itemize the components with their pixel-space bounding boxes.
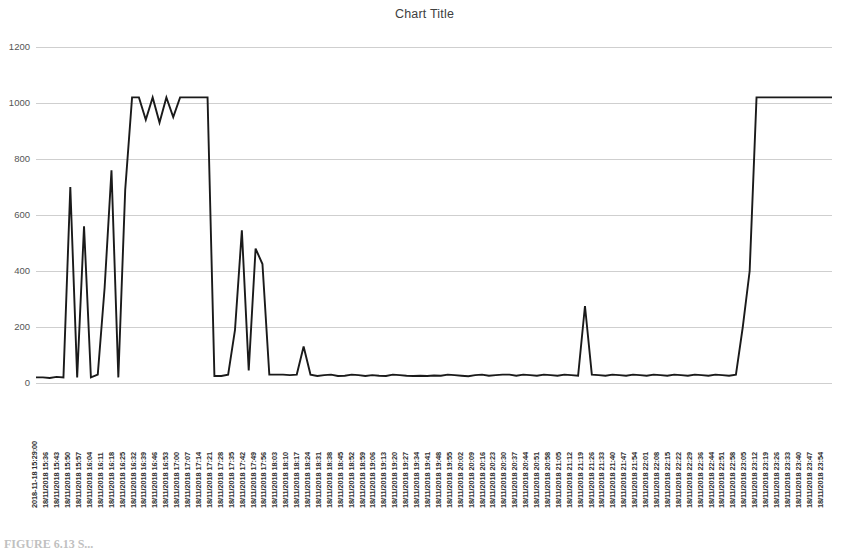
- x-tick-label: 18/11/2018 15:43: [52, 452, 61, 508]
- x-tick-label: 18/11/2018 20:44: [521, 452, 530, 508]
- gridline-0: [36, 383, 832, 384]
- y-tick-label: 1000: [9, 98, 30, 108]
- x-tick-label: 18/11/2018 20:09: [467, 452, 476, 508]
- x-tick-label: 18/11/2018 17:28: [216, 452, 225, 508]
- x-tick-label: 18/11/2018 18:17: [292, 452, 301, 508]
- x-tick-label: 18/11/2018 22:36: [696, 452, 705, 508]
- x-tick-label: 18/11/2018 22:15: [663, 452, 672, 508]
- x-tick-label: 18/11/2018 16:11: [96, 452, 105, 508]
- x-tick-label: 18/11/2018 16:32: [129, 452, 138, 508]
- x-tick-label: 18/11/2018 21:47: [619, 452, 628, 508]
- x-tick-label: 18/11/2018 18:24: [303, 452, 312, 508]
- data-series-line: [36, 47, 832, 383]
- x-tick-label: 18/11/2018 18:03: [270, 452, 279, 508]
- x-tick-label: 18/11/2018 23:12: [750, 452, 759, 508]
- caption-text: FIGURE 6.13 S...: [4, 540, 93, 552]
- x-tick-label: 18/11/2018 23:19: [761, 452, 770, 508]
- x-tick-label: 18/11/2018 17:49: [249, 452, 258, 508]
- x-tick-label: 18/11/2018 19:55: [445, 452, 454, 508]
- x-tick-label: 18/11/2018 17:14: [194, 452, 203, 508]
- x-tick-label: 18/11/2018 23:47: [805, 452, 814, 508]
- x-tick-label: 18/11/2018 21:54: [630, 452, 639, 508]
- x-tick-label: 18/11/2018 16:04: [85, 452, 94, 508]
- y-tick-label: 600: [14, 210, 30, 220]
- x-tick-label: 18/11/2018 18:38: [325, 452, 334, 508]
- x-tick-label: 18/11/2018 17:00: [172, 452, 181, 508]
- x-tick-label: 18/11/2018 20:16: [478, 452, 487, 508]
- x-tick-label: 18/11/2018 19:13: [379, 452, 388, 508]
- x-tick-label: 18/11/2018 22:22: [674, 452, 683, 508]
- x-tick-label: 18/11/2018 20:58: [543, 452, 552, 508]
- x-tick-label: 18/11/2018 17:42: [238, 452, 247, 508]
- x-tick-label: 2018-11-18 15:29:00: [30, 441, 39, 508]
- x-tick-label: 18/11/2018 19:20: [390, 452, 399, 508]
- x-tick-label: 18/11/2018 22:58: [728, 452, 737, 508]
- x-tick-label: 18/11/2018 19:06: [368, 452, 377, 508]
- x-tick-label: 18/11/2018 20:02: [456, 452, 465, 508]
- x-tick-label: 18/11/2018 21:19: [576, 452, 585, 508]
- x-tick-label: 18/11/2018 18:59: [358, 452, 367, 508]
- x-tick-label: 18/11/2018 23:40: [794, 452, 803, 508]
- x-tick-label: 18/11/2018 17:35: [227, 452, 236, 508]
- x-tick-label: 18/11/2018 22:29: [685, 452, 694, 508]
- x-tick-label: 18/11/2018 23:05: [739, 452, 748, 508]
- x-tick-label: 18/11/2018 16:53: [161, 452, 170, 508]
- x-tick-label: 18/11/2018 21:05: [554, 452, 563, 508]
- x-tick-label: 18/11/2018 23:26: [772, 452, 781, 508]
- x-tick-label: 18/11/2018 18:31: [314, 452, 323, 508]
- plot-area: 020040060080010001200: [36, 47, 832, 383]
- x-tick-label: 18/11/2018 16:18: [107, 452, 116, 508]
- x-tick-label: 18/11/2018 16:25: [118, 452, 127, 508]
- chart-title: Chart Title: [0, 7, 849, 21]
- x-tick-label: 18/11/2018 23:54: [816, 452, 825, 508]
- x-tick-label: 18/11/2018 18:52: [347, 452, 356, 508]
- x-tick-label: 18/11/2018 21:40: [608, 452, 617, 508]
- x-tick-label: 18/11/2018 19:41: [423, 452, 432, 508]
- x-tick-label: 18/11/2018 19:34: [412, 452, 421, 508]
- x-tick-label: 18/11/2018 16:39: [139, 452, 148, 508]
- x-tick-label: 18/11/2018 20:51: [532, 452, 541, 508]
- y-tick-label: 200: [14, 322, 30, 332]
- x-tick-label: 18/11/2018 21:33: [597, 452, 606, 508]
- x-tick-label: 18/11/2018 23:33: [783, 452, 792, 508]
- x-tick-label: 18/11/2018 22:44: [707, 452, 716, 508]
- x-tick-label: 18/11/2018 20:30: [499, 452, 508, 508]
- x-tick-label: 18/11/2018 17:21: [205, 452, 214, 508]
- x-tick-label: 18/11/2018 19:27: [401, 452, 410, 508]
- y-tick-label: 400: [14, 266, 30, 276]
- x-tick-label: 18/11/2018 15:50: [63, 452, 72, 508]
- x-tick-label: 18/11/2018 22:01: [641, 452, 650, 508]
- x-tick-label: 18/11/2018 20:23: [488, 452, 497, 508]
- x-tick-label: 18/11/2018 18:45: [336, 452, 345, 508]
- x-tick-label: 18/11/2018 15:57: [74, 452, 83, 508]
- y-tick-label: 800: [14, 154, 30, 164]
- page-caption: FIGURE 6.13 S...: [0, 540, 849, 554]
- chart-container: Chart Title 020040060080010001200 2018-1…: [0, 0, 849, 554]
- y-tick-label: 1200: [9, 42, 30, 52]
- x-tick-label: 18/11/2018 22:51: [717, 452, 726, 508]
- y-tick-label: 0: [25, 378, 30, 388]
- x-tick-label: 18/11/2018 20:37: [510, 452, 519, 508]
- x-tick-label: 18/11/2018 17:07: [183, 452, 192, 508]
- x-tick-label: 18/11/2018 22:08: [652, 452, 661, 508]
- x-tick-label: 18/11/2018 16:46: [150, 452, 159, 508]
- x-tick-label: 18/11/2018 15:36: [41, 452, 50, 508]
- x-tick-label: 18/11/2018 19:48: [434, 452, 443, 508]
- x-axis-labels: 2018-11-18 15:29:0018/11/2018 15:3618/11…: [0, 388, 849, 508]
- x-tick-label: 18/11/2018 21:12: [565, 452, 574, 508]
- x-tick-label: 18/11/2018 18:10: [281, 452, 290, 508]
- x-tick-label: 18/11/2018 21:26: [587, 452, 596, 508]
- x-tick-label: 18/11/2018 17:56: [259, 452, 268, 508]
